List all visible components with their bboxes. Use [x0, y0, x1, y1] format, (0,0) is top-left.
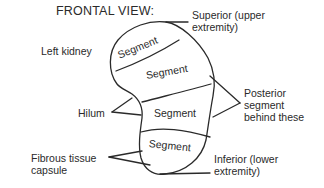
hilum-leader-line-top [112, 98, 132, 112]
superior-callout: Superior (upper extremity) [192, 9, 265, 33]
posterior-leader-line-bottom [213, 103, 240, 117]
capsule-leader-line-top [109, 151, 142, 157]
capsule-callout: Fibrous tissue capsule [31, 152, 96, 176]
diagram-title: FRONTAL VIEW: [56, 5, 154, 17]
organ-label: Left kidney [41, 45, 92, 57]
inferior-callout: Inferior (lower extremity) [214, 153, 278, 177]
capsule-leader-line-bottom [109, 157, 150, 165]
hilum-leader-line-bottom [112, 112, 141, 115]
kidney-diagram: FRONTAL VIEW: Left kidney Segment Segmen… [0, 0, 324, 188]
segment-label-lower-middle: Segment [154, 107, 196, 119]
segment-divider-2 [142, 84, 211, 102]
segment-divider-3 [141, 129, 210, 137]
hilum-callout: Hilum [78, 107, 105, 119]
posterior-callout: Posterior segment behind these [244, 87, 304, 123]
